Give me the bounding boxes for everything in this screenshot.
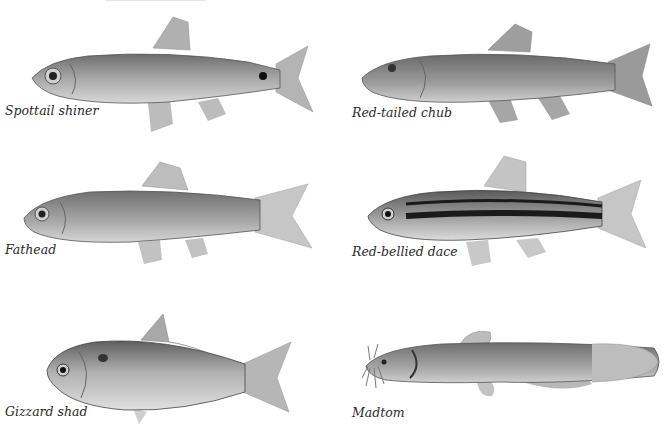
fish-label-madtom: Madtom [352,405,405,420]
fish-label-red-tailed-chub: Red-tailed chub [352,105,452,120]
fathead-illustration [20,158,315,268]
madtom-illustration [362,326,662,406]
fish-label-spottail-shiner: Spottail shiner [5,103,98,118]
fish-label-fathead: Fathead [5,242,56,257]
cropped-header-line [105,0,205,1]
fish-label-red-bellied-dace: Red-bellied dace [352,244,458,259]
fish-label-gizzard-shad: Gizzard shad [5,404,87,419]
